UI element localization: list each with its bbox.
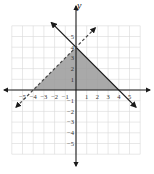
x-tick-label: −5 (19, 93, 26, 100)
x-tick-label: 5 (128, 93, 131, 100)
y-tick-label: 2 (71, 65, 74, 72)
x-tick-label: 4 (117, 93, 121, 100)
y-axis-label: y (76, 0, 82, 11)
x-tick-label: 1 (85, 93, 88, 100)
y-tick-label: 3 (71, 54, 74, 61)
y-tick-label: −5 (67, 140, 74, 147)
y-tick-label: −3 (67, 118, 74, 125)
x-tick-label: −2 (51, 93, 58, 100)
x-tick-label: −3 (40, 93, 47, 100)
x-tick-label: 3 (106, 93, 109, 100)
x-tick-label: 2 (96, 93, 99, 100)
y-tick-label: −2 (67, 108, 74, 115)
y-tick-label: −1 (67, 97, 74, 104)
coordinate-plane: −5−4−3−2−112345−5−4−3−2−112345 y (0, 0, 154, 174)
y-tick-label: 5 (71, 33, 74, 40)
x-tick-label: −4 (30, 93, 38, 100)
y-tick-label: −4 (67, 129, 75, 136)
y-tick-label: 1 (71, 76, 74, 83)
